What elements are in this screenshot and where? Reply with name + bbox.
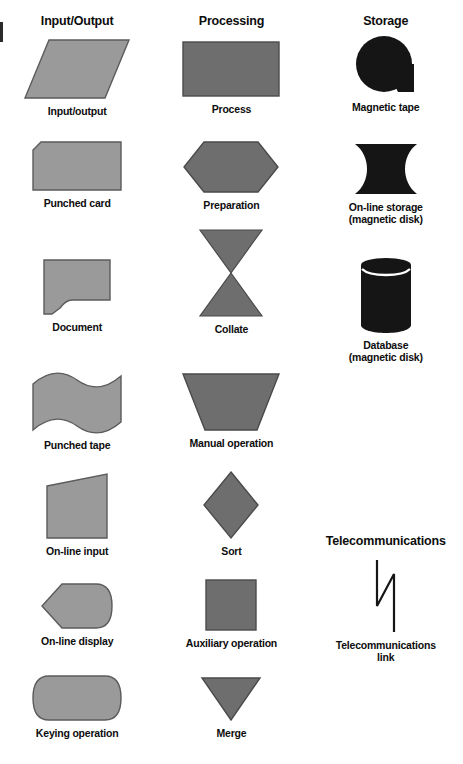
symbol-label: Auxiliary operation: [186, 638, 277, 650]
symbol-label: On-line input: [46, 546, 108, 558]
symbol-cell-preparation[interactable]: Preparation: [154, 140, 308, 212]
shape-online-display: [40, 582, 114, 630]
shape-parallelogram: [23, 38, 131, 100]
symbol-label: On-line display: [41, 636, 113, 648]
symbol-cell-document[interactable]: Document: [0, 258, 154, 334]
symbol-cell-punched-card[interactable]: Punched card: [0, 140, 154, 210]
symbol-label: Punched card: [44, 198, 111, 210]
shape-collate: [198, 228, 264, 318]
shape-diamond: [202, 470, 260, 540]
symbol-label: Merge: [216, 728, 246, 740]
symbol-label: Manual operation: [190, 438, 274, 450]
shape-merge: [200, 676, 262, 722]
shape-punched-tape: [31, 372, 123, 434]
column-header-storage: Storage: [309, 14, 463, 28]
symbol-label: Magnetic tape: [352, 102, 419, 114]
symbol-label: Sort: [221, 546, 241, 558]
shape-online-input: [45, 472, 109, 540]
shape-telecom-link: [368, 558, 404, 634]
column-input-output: Input/Output Input/output Punched card: [0, 0, 154, 764]
column-processing: Processing Process Preparation: [154, 0, 308, 764]
shape-database-cylinder: [359, 256, 413, 334]
shape-keying-operation: [31, 674, 123, 722]
symbol-cell-manual-operation[interactable]: Manual operation: [154, 372, 308, 450]
section-header-telecommunications: Telecommunications: [309, 534, 463, 548]
shape-document: [42, 258, 112, 316]
symbol-cell-online-storage[interactable]: On-line storage (magnetic disk): [309, 142, 463, 225]
symbol-cell-auxiliary-operation[interactable]: Auxiliary operation: [154, 578, 308, 650]
symbol-cell-telecom-link[interactable]: Telecommunications link: [309, 558, 463, 663]
symbol-cell-database[interactable]: Database (magnetic disk): [309, 256, 463, 363]
symbol-label: Preparation: [203, 200, 259, 212]
symbol-label: On-line storage (magnetic disk): [349, 202, 423, 225]
shape-hexagon: [182, 140, 280, 194]
shape-magnetic-tape: [354, 34, 418, 96]
symbol-label: Database (magnetic disk): [349, 340, 423, 363]
symbol-label: Input/output: [48, 106, 107, 118]
symbol-label: Punched tape: [44, 440, 110, 452]
shape-square: [204, 578, 258, 632]
symbol-cell-online-display[interactable]: On-line display: [0, 582, 154, 648]
symbol-cell-sort[interactable]: Sort: [154, 470, 308, 558]
symbol-label: Telecommunications link: [336, 640, 436, 663]
shape-online-storage: [353, 142, 419, 196]
symbol-label: Collate: [215, 324, 249, 336]
shape-punched-card: [31, 140, 123, 192]
symbol-cell-input-output[interactable]: Input/output: [0, 38, 154, 118]
symbol-label: Process: [212, 104, 251, 116]
symbol-columns: Input/Output Input/output Punched card: [0, 0, 463, 764]
symbol-cell-online-input[interactable]: On-line input: [0, 472, 154, 558]
symbol-cell-merge[interactable]: Merge: [154, 676, 308, 740]
symbol-cell-magnetic-tape[interactable]: Magnetic tape: [309, 34, 463, 114]
symbol-label: Keying operation: [36, 728, 119, 740]
symbol-cell-keying-operation[interactable]: Keying operation: [0, 674, 154, 740]
shape-manual-operation: [181, 372, 281, 432]
symbol-cell-punched-tape[interactable]: Punched tape: [0, 372, 154, 452]
symbol-cell-process[interactable]: Process: [154, 40, 308, 116]
column-header-input-output: Input/Output: [0, 14, 154, 28]
column-storage: Storage Magnetic tape On-line storage (m…: [309, 0, 463, 764]
symbol-cell-collate[interactable]: Collate: [154, 228, 308, 336]
column-header-processing: Processing: [154, 14, 308, 28]
shape-rectangle: [181, 40, 281, 98]
symbol-label: Document: [52, 322, 102, 334]
